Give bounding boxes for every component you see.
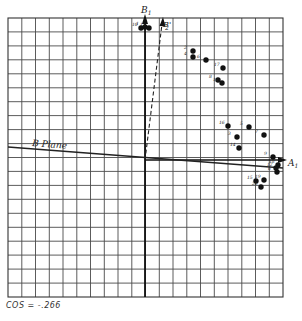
data-point-label: 20 (251, 181, 258, 186)
data-point-label: 4 (183, 51, 187, 56)
data-point (236, 145, 241, 150)
data-point-label: 7 (255, 129, 258, 134)
data-point-label: 3 (228, 131, 231, 136)
data-point (258, 184, 263, 189)
data-point-label: 11 (213, 77, 219, 82)
data-point-label: 13 (140, 22, 146, 27)
data-point-label: 17 (214, 62, 220, 67)
data-point-label: 9 (264, 151, 267, 156)
data-point-label: 1 (136, 21, 139, 26)
axis-label-a1: A1 (287, 158, 298, 169)
data-point-label: 6 (268, 166, 271, 171)
data-point (261, 132, 266, 137)
data-point (234, 134, 239, 139)
data-point-label: 19 (255, 174, 261, 179)
data-point (219, 80, 224, 85)
cosine-caption: COS = -.266 (6, 301, 61, 310)
data-point (274, 169, 279, 174)
data-point (261, 177, 266, 182)
data-point-label: 16 (219, 120, 225, 125)
data-point-label: 6 (197, 54, 200, 59)
data-point (225, 123, 230, 128)
axis-label-b1: B1 (140, 5, 151, 16)
data-point-label: 5 (240, 121, 243, 126)
data-point-label: 15 (247, 175, 253, 180)
data-point-label: 2 (183, 45, 187, 50)
data-point (190, 48, 195, 53)
axis-label-b2-prime: B'2 (162, 20, 171, 31)
data-point (190, 54, 195, 59)
scatter-diagram: B1 B'2 A1 B Plane 1011324617811165731491… (0, 0, 302, 321)
data-point-label: 8 (209, 74, 212, 79)
data-point (246, 124, 251, 129)
data-point (146, 25, 151, 30)
data-point-label: 14 (230, 142, 236, 147)
data-point (203, 57, 208, 62)
data-point (220, 65, 225, 70)
